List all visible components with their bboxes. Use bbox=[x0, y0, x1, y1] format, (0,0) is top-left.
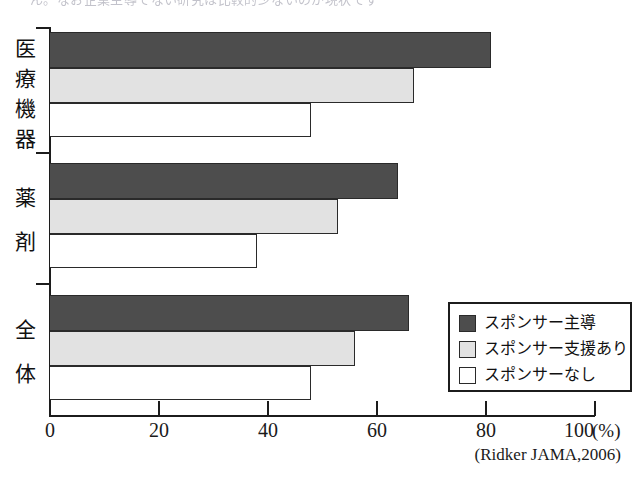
legend-item-no-sponsor: スポンサーなし bbox=[459, 362, 630, 388]
category-label-overall: 全 体 bbox=[8, 315, 42, 389]
legend-item-sponsor-supported: スポンサー支援あり bbox=[459, 336, 630, 362]
category-char: 体 bbox=[8, 359, 42, 389]
bar-overall-sponsor-led bbox=[50, 295, 409, 331]
x-axis-unit-label: (%) bbox=[592, 420, 620, 442]
x-tick-20 bbox=[158, 401, 160, 416]
bar-drugs-sponsor-led bbox=[50, 163, 398, 199]
category-char-gap bbox=[8, 213, 42, 227]
x-tick-label-80: 80 bbox=[476, 419, 496, 441]
category-label-medical-devices: 医 療 機 器 bbox=[8, 34, 42, 154]
x-axis-line bbox=[49, 415, 595, 417]
category-char: 医 bbox=[8, 34, 42, 64]
x-tick-80 bbox=[485, 401, 487, 416]
bar-overall-no-sponsor bbox=[50, 366, 311, 400]
category-char: 器 bbox=[8, 124, 42, 154]
legend-swatch-icon-sponsor-led bbox=[459, 315, 476, 332]
bar-medical-devices-no-sponsor bbox=[50, 103, 311, 137]
source-citation: (Ridker JAMA,2006) bbox=[475, 445, 621, 465]
x-tick-60 bbox=[376, 401, 378, 416]
x-tick-label-60: 60 bbox=[367, 419, 387, 441]
x-tick-label-40: 40 bbox=[258, 419, 278, 441]
x-tick-label-20: 20 bbox=[149, 419, 169, 441]
legend-label-no-sponsor: スポンサーなし bbox=[484, 366, 596, 384]
x-tick-label-100: 100 bbox=[564, 419, 594, 441]
x-tick-100 bbox=[594, 401, 596, 416]
x-tick-0 bbox=[49, 401, 51, 416]
category-label-drugs: 薬 剤 bbox=[8, 183, 42, 257]
x-tick-label-0: 0 bbox=[45, 419, 55, 441]
legend-label-sponsor-supported: スポンサー支援あり bbox=[484, 340, 628, 358]
bar-overall-sponsor-supported bbox=[50, 331, 355, 366]
y-axis-group-tick bbox=[36, 27, 50, 29]
horizontal-bar-chart: 医 療 機 器 薬 剤 全 体 0 20 40 60 80 100 (%) (R… bbox=[0, 0, 637, 480]
legend: スポンサー主導 スポンサー支援あり スポンサーなし bbox=[448, 302, 632, 392]
y-axis-group-tick bbox=[36, 283, 50, 285]
legend-item-sponsor-led: スポンサー主導 bbox=[459, 310, 630, 336]
category-char: 薬 bbox=[8, 183, 42, 213]
legend-swatch-icon-no-sponsor bbox=[459, 367, 476, 384]
legend-swatch-icon-sponsor-supported bbox=[459, 341, 476, 358]
category-char-gap bbox=[8, 345, 42, 359]
category-char: 療 bbox=[8, 64, 42, 94]
bar-drugs-sponsor-supported bbox=[50, 199, 338, 234]
category-char: 機 bbox=[8, 94, 42, 124]
x-tick-40 bbox=[267, 401, 269, 416]
legend-label-sponsor-led: スポンサー主導 bbox=[484, 314, 596, 332]
bar-drugs-no-sponsor bbox=[50, 234, 257, 268]
category-char: 剤 bbox=[8, 227, 42, 257]
bar-medical-devices-sponsor-led bbox=[50, 32, 491, 68]
category-char: 全 bbox=[8, 315, 42, 345]
bar-medical-devices-sponsor-supported bbox=[50, 68, 414, 103]
